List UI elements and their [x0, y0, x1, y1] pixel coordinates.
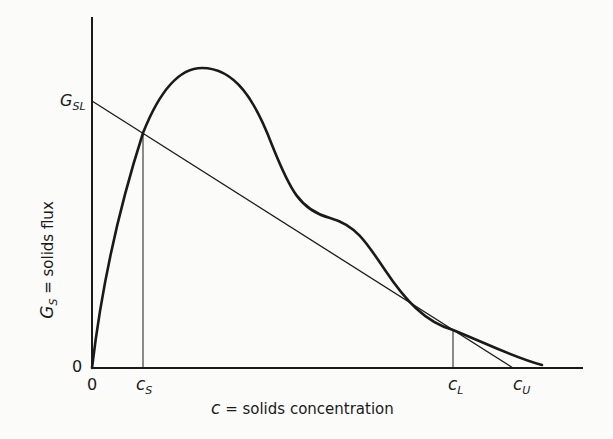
cu-subscript: U [522, 384, 530, 397]
y-axis-title-text: = solids flux [39, 201, 57, 298]
cl-label: cL [448, 374, 464, 394]
cs-symbol: c [136, 374, 145, 394]
y-axis-title-subscript: S [47, 299, 60, 306]
x-origin-label: 0 [87, 375, 97, 394]
gsl-label: GSL [60, 91, 86, 110]
cl-symbol: c [448, 374, 457, 394]
solids-flux-diagram: GSL 0 0 cS cL cU c = solids concentratio… [0, 0, 613, 439]
x-axis-title-symbol: c [211, 398, 220, 418]
gsl-subscript: SL [72, 100, 85, 113]
y-axis-title-symbol: G [37, 306, 57, 319]
x-axis-title: c = solids concentration [211, 398, 394, 418]
cu-label: cU [513, 374, 530, 394]
cs-subscript: S [145, 384, 152, 397]
cs-label: cS [136, 374, 152, 394]
gsl-symbol: G [60, 91, 72, 110]
cl-subscript: L [457, 384, 463, 397]
y-origin-label: 0 [72, 357, 82, 376]
cu-symbol: c [513, 374, 522, 394]
y-axis-title: GS = solids flux [37, 180, 57, 340]
x-axis-title-text: = solids concentration [220, 400, 393, 418]
flux-curve [92, 68, 542, 368]
